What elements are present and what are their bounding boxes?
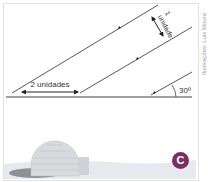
igloo-icon — [31, 141, 79, 176]
section-badge: C — [172, 152, 189, 169]
igloo-entrance — [78, 157, 89, 175]
horizontal-gap-label: 2 unidades — [30, 80, 69, 89]
vertical-gap-word: unidade — [157, 14, 175, 39]
angle-arc — [172, 85, 176, 97]
illustration-credit: Ilustrações: Luis Moura — [199, 4, 208, 84]
angle-label: 30º — [179, 86, 191, 95]
